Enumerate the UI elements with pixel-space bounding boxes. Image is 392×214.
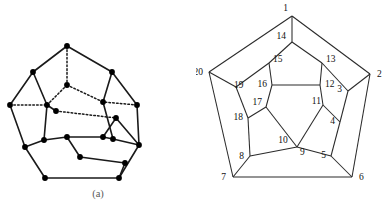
solid-edge	[112, 72, 137, 105]
schlegel-edge	[269, 63, 272, 85]
schlegel-edge	[348, 74, 370, 91]
solid-edge	[103, 72, 112, 102]
solid-edge	[137, 105, 139, 145]
schlegel-edge	[292, 42, 322, 63]
schlegel-edge	[209, 72, 236, 87]
vertex-dot	[41, 137, 47, 143]
vertex-label-17: 17	[253, 97, 263, 107]
dotted-edge	[47, 85, 67, 105]
solid-edge	[80, 157, 125, 163]
vertex-dot	[64, 82, 70, 88]
solid-edge	[25, 147, 45, 178]
vertex-label-6: 6	[359, 172, 364, 182]
dodecahedron-perspective-svg	[0, 0, 196, 214]
figure-panel-a: (a)	[0, 0, 196, 214]
schlegel-edge	[248, 118, 250, 156]
vertex-dot	[7, 102, 13, 108]
schlegel-edge	[292, 16, 370, 74]
schlegel-edge	[209, 72, 233, 177]
solid-edge	[103, 118, 116, 137]
vertex-dot	[64, 134, 70, 140]
vertex-dot	[77, 154, 83, 160]
solid-edge	[25, 140, 44, 147]
vertex-label-7: 7	[221, 172, 226, 182]
schlegel-vertex-labels-group: 1234567891011121314151617181920	[196, 3, 382, 182]
vertex-label-2: 2	[377, 69, 382, 79]
vertex-label-10: 10	[278, 135, 288, 145]
schlegel-edge	[297, 105, 323, 147]
vertex-dot	[122, 160, 128, 166]
vertex-dot	[109, 69, 115, 75]
solid-edge	[44, 105, 47, 140]
vertex-label-12: 12	[325, 79, 335, 89]
vertex-label-8: 8	[239, 151, 244, 161]
vertex-label-13: 13	[326, 54, 336, 64]
solid-edge	[44, 137, 67, 140]
vertex-label-4: 4	[330, 116, 335, 126]
vertex-dot	[44, 102, 50, 108]
vertex-dot	[134, 102, 140, 108]
vertex-dot	[116, 175, 122, 181]
solid-edge	[119, 145, 139, 178]
schlegel-edge	[331, 156, 352, 177]
schlegel-edge	[331, 122, 340, 156]
solid-edges-group	[10, 46, 139, 178]
schlegel-edge	[248, 107, 266, 118]
schlegel-edge	[320, 63, 322, 85]
vertex-label-16: 16	[258, 79, 268, 89]
schlegel-edge	[250, 147, 297, 156]
vertex-dot	[53, 108, 59, 114]
vertex-dots-group	[7, 43, 142, 181]
vertex-label-18: 18	[234, 112, 244, 122]
figure-container: (a) 1234567891011121314151617181920 (b)	[0, 0, 392, 214]
solid-edge	[33, 72, 47, 105]
schlegel-edge	[352, 74, 370, 177]
vertex-label-14: 14	[277, 31, 287, 41]
schlegel-edges-group	[209, 16, 370, 177]
dodecahedron-schlegel-svg: 1234567891011121314151617181920	[196, 0, 392, 214]
vertex-dot	[42, 175, 48, 181]
vertex-dot	[110, 136, 116, 142]
vertex-dot	[113, 115, 119, 121]
vertex-label-5: 5	[321, 150, 326, 160]
solid-edge	[10, 105, 25, 147]
vertex-dot	[100, 134, 106, 140]
vertex-label-9: 9	[300, 147, 305, 157]
vertex-dot	[30, 69, 36, 75]
vertex-label-15: 15	[273, 54, 283, 64]
vertex-label-3: 3	[337, 84, 342, 94]
vertex-dot	[22, 144, 28, 150]
schlegel-edge	[340, 91, 348, 122]
vertex-dot	[136, 142, 142, 148]
dotted-edges-group	[10, 46, 137, 118]
solid-edge	[33, 46, 67, 72]
vertex-label-19: 19	[234, 80, 244, 90]
solid-edge	[10, 72, 33, 105]
figure-panel-b: 1234567891011121314151617181920 (b)	[196, 0, 392, 214]
vertex-dot	[64, 43, 70, 49]
vertex-dot	[100, 99, 106, 105]
vertex-label-20: 20	[196, 67, 203, 77]
solid-edge	[67, 137, 80, 157]
dotted-edge	[103, 102, 137, 105]
dotted-edge	[67, 85, 103, 102]
caption-a: (a)	[60, 188, 136, 199]
vertex-label-1: 1	[283, 3, 288, 13]
solid-edge	[67, 46, 112, 72]
vertex-label-11: 11	[312, 96, 321, 106]
